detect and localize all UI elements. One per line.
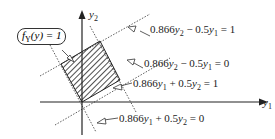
region-label: fY(y) = 1 — [17, 28, 66, 45]
line-label-4: 0.866y1 + 0.5y2 = 0 — [119, 112, 204, 127]
line-label-1: 0.866y2 − 0.5y1 = 1 — [150, 23, 235, 38]
y2-arrow-icon — [79, 10, 86, 19]
y1-axis-label: y1 — [263, 96, 272, 111]
y2-axis-label: y2 — [89, 8, 98, 23]
line-label-2: 0.866y2 − 0.5y1 = 0 — [144, 57, 229, 72]
leader-arrow-icon — [127, 59, 135, 65]
hatched-region — [61, 41, 120, 102]
line-label-3: 0.866y1 + 0.5y2 = 1 — [133, 77, 218, 92]
leader-arrow-icon — [97, 118, 106, 124]
leader-arrow-icon — [113, 84, 122, 90]
leader-arrow-icon — [128, 26, 136, 32]
